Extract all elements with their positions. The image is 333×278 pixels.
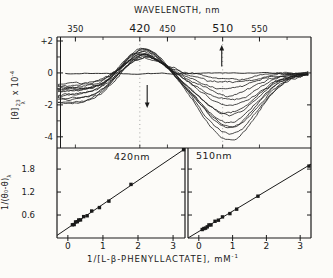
wavelength-axis-title: WAVELENGTH, nm: [117, 5, 237, 15]
svg-text:420: 420: [129, 22, 150, 35]
svg-text:510: 510: [212, 22, 233, 35]
exponent: -4: [9, 70, 15, 76]
dose-response-510-panel: 0123: [188, 148, 311, 251]
svg-text:350: 350: [67, 24, 83, 34]
svg-text:1.2: 1.2: [21, 187, 35, 197]
figure: 350420450510550+20-2-401230.61.21.80123 …: [0, 0, 333, 278]
svg-text:1: 1: [230, 241, 236, 251]
times-ten: x 10: [11, 76, 20, 98]
svg-text:1.8: 1.8: [21, 164, 35, 174]
bottom-y-axis-label: 1/(θ₀-θ)λ: [1, 154, 15, 230]
svg-text:1: 1: [100, 241, 106, 251]
figure-canvas: 350420450510550+20-2-401230.61.21.80123: [0, 0, 333, 278]
svg-text:-2: -2: [45, 100, 53, 110]
svg-text:2: 2: [264, 241, 270, 251]
dose-response-420-panel: 01230.61.21.8: [21, 148, 185, 251]
svg-text:550: 550: [251, 24, 267, 34]
theta-sup-sub: 23λ: [16, 99, 26, 107]
panel-label-510nm: 510nm: [196, 150, 232, 161]
svg-text:2: 2: [135, 241, 141, 251]
bottom-x-axis-label: 1/[L-β-PHENYLLACTATE], mM-1: [43, 253, 283, 264]
svg-text:0: 0: [48, 68, 53, 78]
svg-text:0: 0: [65, 241, 71, 251]
svg-text:450: 450: [159, 24, 175, 34]
theta-bracket: [θ]: [11, 108, 20, 120]
svg-text:+2: +2: [40, 36, 53, 46]
svg-text:0.6: 0.6: [21, 210, 35, 220]
svg-text:0: 0: [196, 241, 202, 251]
svg-text:3: 3: [297, 241, 303, 251]
top-y-axis-label: [θ]23λ x 10-4: [9, 53, 23, 137]
panel-label-420nm: 420nm: [114, 151, 150, 162]
svg-text:3: 3: [170, 241, 176, 251]
spectra-panel: 350420450510550+20-2-4: [40, 22, 311, 148]
svg-text:-4: -4: [45, 132, 53, 142]
